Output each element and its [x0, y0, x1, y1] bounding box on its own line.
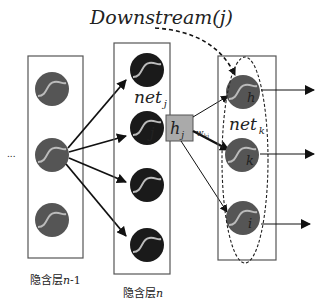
layer-n-minus-1-label: 隐含层n-1 [30, 273, 81, 287]
neuron-icon [130, 53, 164, 87]
outgoing-arrows [260, 90, 314, 224]
neuron-i: i [226, 201, 260, 235]
layer-n-label: 隐含层n [123, 286, 163, 300]
svg-text:h: h [247, 90, 255, 105]
input-connections [66, 80, 126, 236]
neuron-icon [130, 228, 164, 262]
neural-network-diagram: Downstream(j) ... 隐含层n-1 [0, 0, 321, 302]
neuron-icon [35, 138, 69, 172]
ellipsis: ... [7, 149, 16, 159]
svg-text:k: k [246, 153, 254, 168]
neuron-icon [35, 72, 69, 106]
neuron-icon [35, 203, 69, 237]
current-layer-nodes: j [130, 53, 164, 262]
net-k-label: netk [229, 114, 265, 136]
next-layer-nodes: h k i [225, 75, 260, 235]
neuron-k: k [225, 138, 259, 172]
neuron-h: h [226, 75, 260, 109]
neuron-j: j [130, 111, 164, 145]
downstream-dashed-arrow [155, 28, 235, 75]
prev-layer-nodes [35, 72, 69, 237]
weight-label: wkj [196, 128, 209, 140]
downstream-title: Downstream(j) [89, 6, 233, 28]
neuron-icon [130, 168, 164, 202]
svg-text:i: i [248, 216, 252, 231]
output-connections [181, 96, 229, 212]
net-j-label: netj [134, 87, 167, 109]
